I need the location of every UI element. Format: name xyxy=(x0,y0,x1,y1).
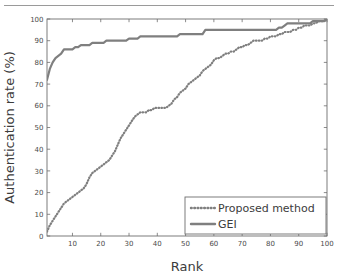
y-tick-label: 90 xyxy=(35,37,44,45)
x-tick-label: 10 xyxy=(68,240,77,248)
y-tick-label: 30 xyxy=(35,168,44,176)
legend-label-proposed-method: Proposed method xyxy=(218,202,315,215)
y-tick-label: 10 xyxy=(35,211,44,219)
x-tick-label: 100 xyxy=(320,240,333,248)
cmc-curve-figure: 1020304050607080901000102030405060708090… xyxy=(0,0,338,278)
x-tick-label: 40 xyxy=(153,240,162,248)
x-tick-label: 90 xyxy=(294,240,303,248)
y-tick-label: 0 xyxy=(39,233,43,241)
y-tick-label: 50 xyxy=(35,124,44,132)
x-tick-label: 30 xyxy=(125,240,134,248)
x-tick-label: 50 xyxy=(181,240,190,248)
y-tick-label: 100 xyxy=(30,16,43,24)
x-tick-label: 60 xyxy=(209,240,218,248)
y-tick-label: 20 xyxy=(35,189,44,197)
y-axis-label: Authentication rate (%) xyxy=(2,51,17,204)
x-tick-label: 20 xyxy=(96,240,105,248)
series-line-gei xyxy=(47,19,327,80)
y-tick-label: 80 xyxy=(35,59,44,67)
legend-label-gei: GEI xyxy=(218,218,237,231)
x-tick-label: 80 xyxy=(266,240,275,248)
x-axis-label: Rank xyxy=(171,259,204,274)
x-tick-label: 70 xyxy=(238,240,247,248)
chart-canvas: 1020304050607080901000102030405060708090… xyxy=(0,0,338,278)
y-tick-label: 40 xyxy=(35,146,44,154)
y-tick-label: 70 xyxy=(35,81,44,89)
y-tick-label: 60 xyxy=(35,102,44,110)
